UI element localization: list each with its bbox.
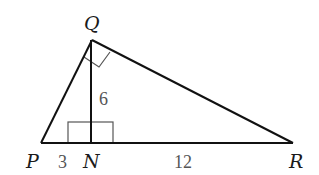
side-pq <box>41 40 92 143</box>
measure-pn: 3 <box>58 152 67 172</box>
right-angle-mark-n-left <box>68 122 91 143</box>
vertex-label-n: N <box>82 150 101 172</box>
right-angle-mark-n-right <box>91 122 113 143</box>
measure-qn: 6 <box>99 89 108 109</box>
vertex-label-q: Q <box>84 12 100 34</box>
measure-nr: 12 <box>174 152 192 172</box>
right-angle-mark-q <box>84 52 110 67</box>
side-qr <box>92 40 293 143</box>
vertex-label-p: P <box>25 150 40 172</box>
vertex-label-r: R <box>288 150 303 172</box>
triangle-diagram: Q P N R 3 12 6 <box>0 0 319 175</box>
